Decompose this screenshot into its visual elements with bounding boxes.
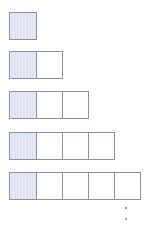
row-5 <box>9 172 141 200</box>
empty-square <box>62 133 88 159</box>
row-2 <box>9 51 63 79</box>
shaded-square <box>10 173 36 199</box>
empty-square <box>36 173 62 199</box>
empty-square <box>36 133 62 159</box>
ellipsis-dot-icon <box>125 218 127 220</box>
empty-square <box>62 173 88 199</box>
empty-square <box>88 133 114 159</box>
empty-square <box>62 92 88 118</box>
shaded-square <box>10 92 36 118</box>
ellipsis-dot-icon <box>125 207 127 209</box>
empty-square <box>88 173 114 199</box>
empty-square <box>36 92 62 118</box>
row-1 <box>9 12 37 40</box>
empty-square <box>36 52 62 78</box>
shaded-square <box>10 52 36 78</box>
shaded-square <box>10 133 36 159</box>
shaded-square <box>10 13 36 39</box>
empty-square <box>114 173 140 199</box>
row-3 <box>9 91 89 119</box>
row-4 <box>9 132 115 160</box>
